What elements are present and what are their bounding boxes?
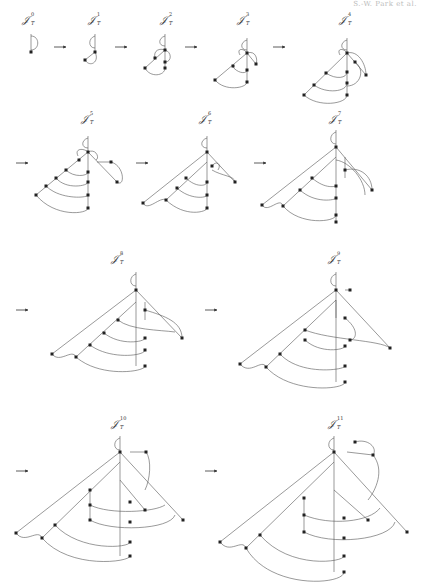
graph-j1 (85, 34, 96, 64)
graph-j8 (52, 272, 182, 372)
graph-j3 (215, 38, 257, 88)
graph-j10 (16, 436, 183, 562)
graph-j6 (143, 136, 235, 212)
graph-j11 (220, 436, 407, 581)
graph-j7 (262, 130, 372, 222)
graph-j5 (36, 136, 122, 213)
graph-j4 (304, 38, 366, 103)
graph-j0 (31, 34, 38, 52)
graph-j9 (240, 272, 390, 388)
graph-nodes (15, 49, 409, 574)
graph-drawings (0, 0, 423, 583)
